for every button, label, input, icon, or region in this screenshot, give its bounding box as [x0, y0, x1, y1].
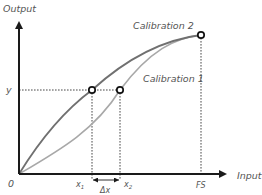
- y-value-label: y: [5, 84, 12, 95]
- x1-label: x1: [75, 180, 84, 190]
- x1-point-marker: [89, 87, 95, 93]
- calibration-2-label: Calibration 2: [133, 20, 194, 31]
- fs-label: FS: [196, 181, 206, 190]
- x1-label-sub: 1: [81, 184, 85, 190]
- calibration-1-label: Calibration 1: [143, 73, 204, 84]
- y-axis-label: Output: [3, 3, 37, 14]
- fs-point-marker: [198, 32, 204, 38]
- x2-label: x2: [123, 180, 133, 190]
- calibration-diagram: Output Input 0 y x1 x2 Δx FS Calibration…: [0, 0, 262, 195]
- delta-x-label: Δx: [99, 186, 110, 195]
- x2-point-marker: [117, 87, 123, 93]
- calibration-1-curve: [19, 35, 201, 174]
- origin-label: 0: [8, 178, 14, 189]
- x-axis-label: Input: [237, 170, 262, 181]
- x2-label-sub: 2: [129, 184, 133, 190]
